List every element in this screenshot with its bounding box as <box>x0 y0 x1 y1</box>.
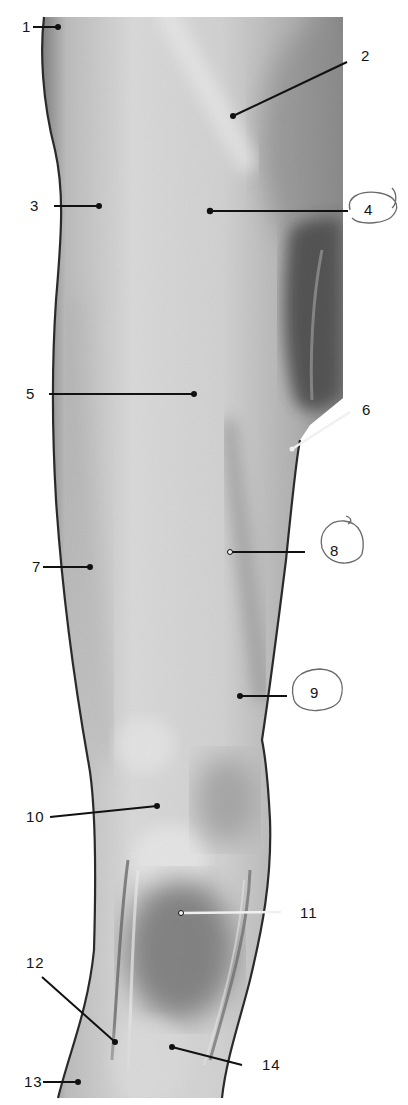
label-7: 7 <box>32 559 41 574</box>
label-11: 11 <box>300 905 318 920</box>
label-12: 12 <box>26 955 45 970</box>
label-10: 10 <box>26 809 45 824</box>
label-8: 8 <box>330 543 339 558</box>
label-6: 6 <box>362 402 371 417</box>
label-9: 9 <box>310 685 319 700</box>
label-2: 2 <box>361 48 370 63</box>
label-3: 3 <box>30 198 39 213</box>
circle-label-8 <box>321 516 363 563</box>
leg-body <box>42 0 400 1100</box>
anatomical-illustration <box>0 0 408 1105</box>
label-1: 1 <box>22 19 31 34</box>
label-5: 5 <box>26 386 35 401</box>
label-14: 14 <box>262 1057 281 1072</box>
label-4: 4 <box>364 202 373 217</box>
label-13: 13 <box>24 1074 43 1089</box>
